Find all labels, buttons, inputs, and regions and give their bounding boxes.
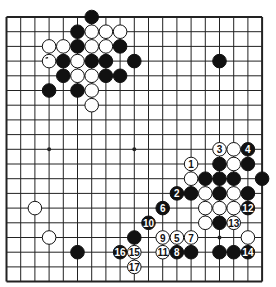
white-stone-circle <box>42 54 56 68</box>
black-stone-circle <box>255 172 269 186</box>
black-stone-circle <box>57 54 71 68</box>
white-stone <box>99 40 113 54</box>
black-stone <box>85 10 99 24</box>
move-number-label: 16 <box>115 247 127 258</box>
black-stone-circle <box>213 216 227 230</box>
black-stone <box>184 245 198 259</box>
move-number-label: 14 <box>242 247 254 258</box>
star-point <box>218 236 222 240</box>
black-stone <box>99 69 113 83</box>
black-stone <box>255 172 269 186</box>
black-stone: 16 <box>113 245 127 259</box>
white-stone <box>227 157 241 171</box>
white-stone-circle <box>85 40 99 54</box>
stone-mark-icon <box>46 58 49 59</box>
white-stone <box>85 40 99 54</box>
move-number-label: 3 <box>217 144 223 155</box>
black-stone <box>213 54 227 68</box>
black-stone-circle <box>42 84 56 98</box>
move-number-label: 12 <box>242 203 254 214</box>
black-stone: 2 <box>170 187 184 201</box>
white-stone-circle <box>42 40 56 54</box>
white-stone: 9 <box>156 231 170 245</box>
black-stone-circle <box>85 10 99 24</box>
white-stone: 1 <box>184 157 198 171</box>
white-stone <box>42 40 56 54</box>
black-stone <box>71 25 85 39</box>
black-stone <box>71 40 85 54</box>
white-stone-circle <box>85 98 99 112</box>
white-stone-circle <box>241 231 255 245</box>
white-stone <box>241 231 255 245</box>
move-number-label: 7 <box>188 233 194 244</box>
black-stone <box>213 157 227 171</box>
white-stone <box>71 54 85 68</box>
black-stone <box>199 172 213 186</box>
white-stone <box>99 25 113 39</box>
white-stone <box>227 143 241 157</box>
black-stone-circle <box>184 187 198 201</box>
white-stone <box>71 69 85 83</box>
white-stone-circle <box>42 231 56 245</box>
black-stone-circle <box>71 25 85 39</box>
white-stone <box>85 98 99 112</box>
white-stone <box>57 40 71 54</box>
white-stone: 17 <box>128 260 142 274</box>
move-number-label: 4 <box>245 144 251 155</box>
black-stone-circle <box>128 231 142 245</box>
black-stone-circle <box>227 245 241 259</box>
black-stone: 12 <box>241 201 255 215</box>
white-stone: 3 <box>213 143 227 157</box>
black-stone-circle <box>99 69 113 83</box>
white-stone-circle <box>71 69 85 83</box>
white-stone-circle <box>199 201 213 215</box>
black-stone-circle <box>213 245 227 259</box>
black-stone <box>57 54 71 68</box>
white-stone <box>227 201 241 215</box>
black-stone <box>71 245 85 259</box>
white-stone-circle <box>57 40 71 54</box>
move-number-label: 17 <box>129 262 141 273</box>
white-stone-circle <box>184 172 198 186</box>
black-stone-circle <box>113 69 127 83</box>
black-stone-circle <box>213 157 227 171</box>
black-stone <box>128 231 142 245</box>
black-stone: 10 <box>142 216 156 230</box>
white-stone-circle <box>227 143 241 157</box>
move-number-label: 9 <box>160 233 166 244</box>
black-stone: 4 <box>241 143 255 157</box>
black-stone-circle <box>241 157 255 171</box>
white-stone-circle <box>113 25 127 39</box>
black-stone-circle <box>128 54 142 68</box>
black-stone <box>227 172 241 186</box>
move-number-label: 13 <box>228 218 240 229</box>
black-stone <box>71 84 85 98</box>
move-number-label: 8 <box>174 247 180 258</box>
move-number-label: 5 <box>174 233 180 244</box>
white-stone <box>213 201 227 215</box>
black-stone-circle <box>199 172 213 186</box>
white-stone <box>28 201 42 215</box>
black-stone-circle <box>113 40 127 54</box>
black-stone-circle <box>71 84 85 98</box>
black-stone <box>128 54 142 68</box>
white-stone <box>199 216 213 230</box>
white-stone-circle <box>99 25 113 39</box>
black-stone: 14 <box>241 245 255 259</box>
black-stone-circle <box>184 245 198 259</box>
white-stone-circle <box>28 201 42 215</box>
black-stone-circle <box>99 54 113 68</box>
black-stone <box>213 172 227 186</box>
black-stone-circle <box>213 187 227 201</box>
move-number-label: 10 <box>143 218 155 229</box>
white-stone-circle <box>85 25 99 39</box>
black-stone-circle <box>71 245 85 259</box>
white-stone <box>113 25 127 39</box>
black-stone-circle <box>71 40 85 54</box>
white-stone: 15 <box>128 245 142 259</box>
white-stone <box>85 25 99 39</box>
black-stone <box>213 245 227 259</box>
black-stone <box>241 157 255 171</box>
black-stone <box>57 69 71 83</box>
black-stone <box>184 187 198 201</box>
